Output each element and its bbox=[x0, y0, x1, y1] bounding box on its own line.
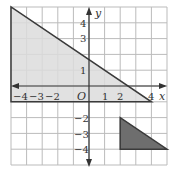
y-axis-label: y bbox=[94, 7, 102, 20]
x-axis-arrow-right bbox=[159, 83, 167, 89]
y-axis-arrow-down bbox=[86, 159, 92, 167]
x-tick-label: 4 bbox=[148, 91, 154, 102]
y-tick-label: 4 bbox=[80, 18, 86, 29]
y-tick-label: 3 bbox=[80, 33, 86, 44]
y-tick-label: −4 bbox=[74, 144, 89, 155]
x-tick-label: −4 bbox=[13, 91, 28, 102]
y-tick-label: −3 bbox=[74, 129, 89, 140]
x-axis-label: x bbox=[159, 90, 166, 103]
x-tick-label: −2 bbox=[45, 91, 60, 102]
origin-label: O bbox=[77, 90, 86, 103]
graph-canvas: y x O −4 −3 −2 1 2 4 4 3 1 −2 −3 −4 bbox=[0, 0, 171, 176]
y-tick-label: −2 bbox=[74, 113, 89, 124]
y-axis-arrow-up bbox=[86, 7, 92, 15]
coordinate-graph: y x O −4 −3 −2 1 2 4 4 3 1 −2 −3 −4 bbox=[0, 0, 171, 176]
x-tick-label: 1 bbox=[102, 91, 108, 102]
x-tick-label: 2 bbox=[117, 91, 123, 102]
x-tick-label: −3 bbox=[29, 91, 44, 102]
y-tick-label: 1 bbox=[80, 65, 86, 76]
